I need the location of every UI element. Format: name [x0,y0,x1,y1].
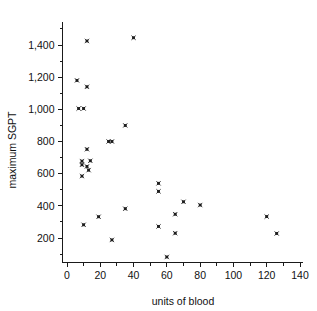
data-point [85,39,89,43]
data-point [181,200,185,204]
marker-core [166,256,168,258]
data-point [123,207,127,211]
marker-core [98,216,100,218]
data-point [165,255,169,259]
x-tick-label: 140 [291,269,309,281]
data-point [76,106,80,110]
x-tick-label: 60 [161,269,173,281]
marker-core [86,165,88,167]
data-point [80,159,84,163]
marker-core [124,124,126,126]
marker-core [158,190,160,192]
x-tick-label: 40 [128,269,140,281]
data-point [265,214,269,218]
marker-core [83,224,85,226]
x-tick-label: 0 [64,269,70,281]
data-point [123,123,127,127]
data-point [131,36,135,40]
axis-frame [63,22,304,263]
axis-lines [63,22,304,263]
data-point [96,215,100,219]
marker-core [76,79,78,81]
plot-canvas: 2004006008001,0001,2001,400 020406080100… [0,0,317,311]
data-point [173,231,177,235]
marker-core [86,40,88,42]
data-point [80,163,84,167]
x-tick-label: 20 [94,269,106,281]
marker-core [174,213,176,215]
marker-core [78,108,80,110]
y-tick-label: 600 [37,167,55,179]
data-point [110,139,114,143]
marker-core [111,141,113,143]
marker-core [81,175,83,177]
data-point-series [75,36,279,260]
marker-core [174,232,176,234]
x-tick-label: 120 [258,269,276,281]
marker-core [133,37,135,39]
marker-core [83,108,85,110]
y-tick-label: 1,000 [28,103,54,115]
marker-core [89,160,91,162]
data-point [81,223,85,227]
marker-core [86,148,88,150]
data-point [75,78,79,82]
marker-core [183,201,185,203]
marker-core [88,169,90,171]
x-axis-tick-labels: 020406080100120140 [64,269,309,281]
x-tick-label: 100 [225,269,243,281]
marker-core [86,86,88,88]
data-point [110,238,114,242]
data-point [80,174,84,178]
y-axis-title: maximum SGPT [6,111,18,189]
x-axis-ticks [67,263,300,268]
y-tick-label: 1,400 [28,39,54,51]
y-tick-label: 200 [37,232,55,244]
marker-core [199,204,201,206]
marker-core [108,141,110,143]
marker-core [81,160,83,162]
marker-core [158,182,160,184]
data-point [156,224,160,228]
marker-core [81,164,83,166]
data-point [156,189,160,193]
data-point [85,85,89,89]
data-point [88,159,92,163]
y-axis-ticks [58,29,63,254]
data-point [173,212,177,216]
data-point [275,231,279,235]
marker-core [276,232,278,234]
data-point [81,106,85,110]
marker-core [158,225,160,227]
marker-core [124,208,126,210]
marker-core [111,239,113,241]
y-tick-label: 1,200 [28,71,54,83]
x-tick-label: 80 [194,269,206,281]
marker-core [266,216,268,218]
data-point [85,147,89,151]
x-axis-title: units of blood [152,295,215,307]
data-point [156,181,160,185]
y-tick-label: 800 [37,135,55,147]
y-axis-tick-labels: 2004006008001,0001,2001,400 [28,39,54,244]
data-point [198,203,202,207]
scatter-plot-figure: 2004006008001,0001,2001,400 020406080100… [0,0,317,311]
y-tick-label: 400 [37,200,55,212]
